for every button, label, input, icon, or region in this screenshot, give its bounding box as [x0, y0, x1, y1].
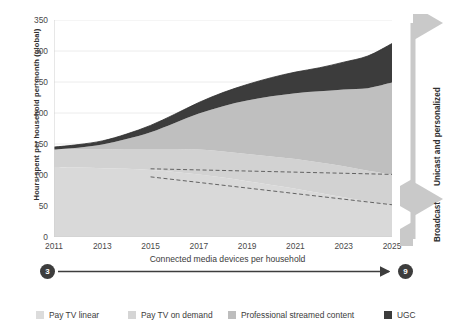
x-axis-tick-label: 2021	[275, 241, 315, 251]
side-arrows-svg	[400, 14, 451, 246]
legend-label: Pay TV on demand	[141, 310, 213, 320]
chart-root: Hours spent per household per month (glo…	[0, 0, 451, 334]
legend-label: UGC	[397, 310, 416, 320]
devices-start-badge: 3	[40, 264, 55, 279]
x-axis-tick-label: 2019	[227, 241, 267, 251]
y-axis-tick-label: 200	[18, 108, 48, 118]
y-axis-tick-label: 150	[18, 139, 48, 149]
side-annotation-group: Unicast and personalized Broadcast	[400, 14, 451, 246]
legend-item[interactable]: UGC	[384, 305, 416, 319]
legend-swatch	[128, 311, 136, 319]
legend-label: Professional streamed content	[241, 310, 354, 320]
legend-item[interactable]: Professional streamed content	[228, 305, 354, 319]
legend-item[interactable]: Pay TV linear	[36, 305, 99, 319]
y-axis-tick-label: 250	[18, 77, 48, 87]
x-axis-tick-label: 2023	[324, 241, 364, 251]
devices-axis-arrow	[40, 262, 415, 286]
x-axis-tick-label: 2013	[82, 241, 122, 251]
side-annotation-unicast-label: Unicast and personalized	[433, 87, 442, 186]
y-axis-tick-label: 300	[18, 46, 48, 56]
y-axis-tick-label: 350	[18, 15, 48, 25]
y-axis-tick-label: 0	[18, 232, 48, 242]
legend-swatch	[228, 311, 236, 319]
x-axis-tick-label: 2017	[179, 241, 219, 251]
stacked-area-svg	[54, 20, 392, 237]
y-axis-tick-label: 50	[18, 201, 48, 211]
y-axis-tick-label: 100	[18, 170, 48, 180]
legend-swatch	[384, 311, 392, 319]
x-axis-tick-label: 2015	[131, 241, 171, 251]
legend-label: Pay TV linear	[49, 310, 99, 320]
devices-axis-label: Connected media devices per household	[40, 254, 415, 264]
side-annotation-broadcast-label: Broadcast	[433, 202, 442, 242]
legend-item[interactable]: Pay TV on demand	[128, 305, 213, 319]
devices-end-badge: 9	[398, 264, 413, 279]
x-axis-tick-label: 2011	[34, 241, 74, 251]
legend-swatch	[36, 311, 44, 319]
devices-axis: Connected media devices per household 3 …	[40, 262, 415, 286]
chart-legend: Pay TV linearPay TV on demandProfessiona…	[36, 305, 426, 321]
plot-area	[54, 20, 392, 237]
